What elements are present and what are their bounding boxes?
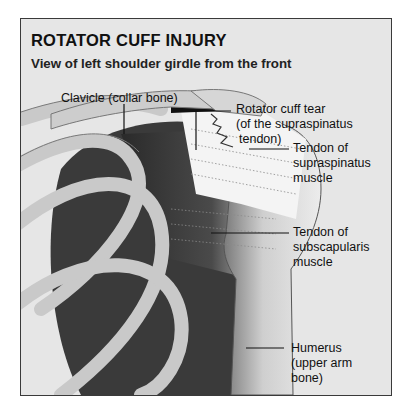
figure-title: ROTATOR CUFF INJURY (31, 31, 227, 50)
label-line: muscle (293, 255, 369, 270)
label-supraspinatus-tendon: Tendon of supraspinatus muscle (293, 141, 371, 186)
label-line: Tendon of (293, 225, 369, 240)
label-line: muscle (293, 171, 371, 186)
label-line: supraspinatus (293, 156, 371, 171)
label-humerus: Humerus (upper arm bone) (291, 341, 352, 386)
label-line: subscapularis (293, 240, 369, 255)
label-clavicle: Clavicle (collar bone) (61, 91, 178, 106)
label-line: Humerus (291, 341, 352, 356)
label-line: (upper arm (291, 356, 352, 371)
figure-frame: ROTATOR CUFF INJURY View of left shoulde… (20, 18, 392, 396)
label-line: bone) (291, 371, 352, 386)
shoulder-illustration (21, 19, 391, 395)
label-line: (of the supraspinatus (236, 117, 353, 132)
figure-subtitle: View of left shoulder girdle from the fr… (31, 56, 292, 71)
label-line: Rotator cuff tear (236, 102, 353, 117)
label-subscapularis-tendon: Tendon of subscapularis muscle (293, 225, 369, 270)
label-line: Tendon of (293, 141, 371, 156)
